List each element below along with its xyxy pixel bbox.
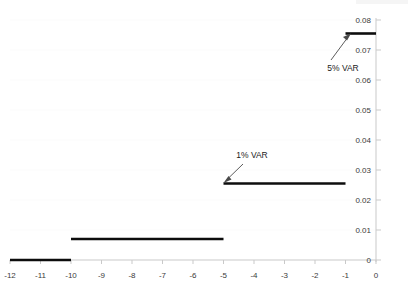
x-axis-label--2: -2 (311, 271, 319, 280)
x-axis-label--9: -9 (98, 271, 106, 280)
y-axis-label-0.04: 0.04 (355, 136, 371, 145)
x-axis-label--10: -10 (65, 271, 77, 280)
step-series (10, 34, 376, 261)
annotation-1pct-var-label: 1% VAR (236, 150, 268, 160)
y-axis-ticks (376, 20, 381, 260)
y-axis-label-0.01: 0.01 (355, 226, 371, 235)
x-axis-label--4: -4 (250, 271, 258, 280)
y-axis-label-0: 0 (367, 256, 372, 265)
x-axis-label--8: -8 (128, 271, 136, 280)
x-axis-label--1: -1 (342, 271, 350, 280)
chart-container: 1% VAR 5% VAR 0.08 0.07 0.06 0.05 0.04 0… (0, 0, 415, 302)
top-edge-artifact (356, 0, 408, 4)
x-axis-label--6: -6 (189, 271, 197, 280)
x-axis-label--3: -3 (281, 271, 289, 280)
x-axis-label--7: -7 (159, 271, 167, 280)
x-axis-label-0: 0 (374, 271, 379, 280)
x-axis-labels: -12 -11 -10 -9 -8 -7 -6 -5 -4 -3 -2 -1 0 (4, 271, 379, 280)
y-axis-label-0.02: 0.02 (355, 196, 371, 205)
y-axis-label-0.05: 0.05 (355, 106, 371, 115)
annotation-1pct-var: 1% VAR (224, 150, 268, 183)
y-axis-label-0.07: 0.07 (355, 46, 371, 55)
x-axis-label--11: -11 (35, 271, 47, 280)
y-axis-label-0.08: 0.08 (355, 16, 371, 25)
annotation-5pct-var-arrow-line (331, 37, 348, 60)
x-axis-label--5: -5 (220, 271, 228, 280)
gridlines (10, 20, 376, 230)
y-axis-labels: 0.08 0.07 0.06 0.05 0.04 0.03 0.02 0.01 … (355, 16, 371, 265)
y-axis-label-0.06: 0.06 (355, 76, 371, 85)
annotation-5pct-var: 5% VAR (327, 34, 359, 74)
x-axis-label--12: -12 (4, 271, 16, 280)
annotation-5pct-var-label: 5% VAR (327, 63, 359, 73)
annotation-1pct-var-arrow-head (224, 176, 232, 183)
step-chart: 1% VAR 5% VAR 0.08 0.07 0.06 0.05 0.04 0… (0, 0, 415, 302)
y-axis-label-0.03: 0.03 (355, 166, 371, 175)
